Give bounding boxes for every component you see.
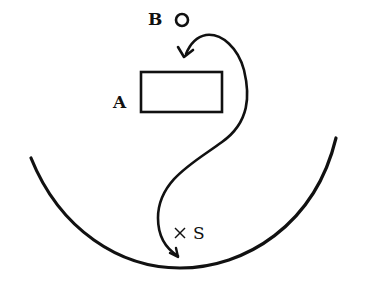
diagram-canvas	[0, 0, 370, 290]
point-b-circle	[176, 14, 188, 26]
label-s: S	[193, 225, 205, 242]
point-s-cross-icon	[175, 228, 185, 238]
box-a	[141, 72, 222, 112]
bowl-arc	[31, 138, 336, 268]
label-a: A	[113, 94, 126, 111]
label-b: B	[148, 11, 162, 28]
